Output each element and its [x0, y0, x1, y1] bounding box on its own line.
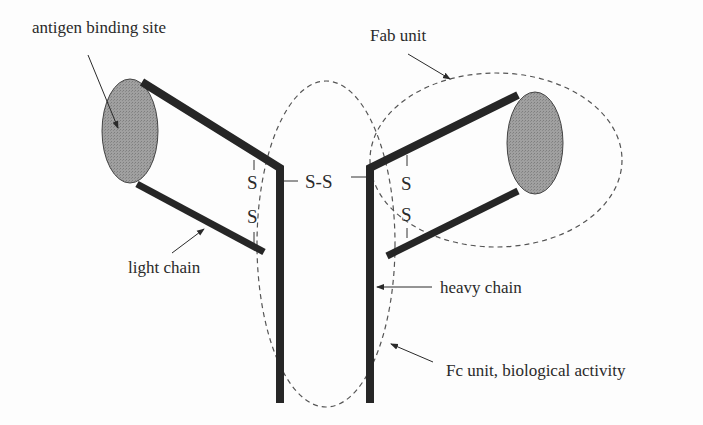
heavy-chain-label: heavy chain: [440, 278, 522, 297]
fc-unit-label: Fc unit, biological activity: [446, 361, 626, 380]
disulfide-left-lower: S: [247, 206, 258, 227]
light-chain-arrow: [172, 229, 204, 253]
fc-unit-arrow: [391, 344, 433, 362]
antibody-diagram: S-S S S S S antigen binding site Fab uni…: [0, 0, 703, 425]
disulfide-right-upper: S: [401, 173, 412, 194]
antigen-binding-site-label: antigen binding site: [32, 18, 166, 37]
disulfide-left-upper: S: [247, 172, 258, 193]
left-heavy-chain: [142, 82, 280, 403]
disulfide-bond-center: S-S: [305, 171, 332, 192]
fab-unit-label: Fab unit: [370, 26, 426, 45]
disulfide-right-lower: S: [401, 204, 412, 225]
right-antigen-binding-site: [507, 92, 563, 194]
left-antigen-binding-site: [102, 79, 158, 183]
fab-unit-arrow: [408, 54, 450, 79]
right-heavy-chain: [370, 95, 518, 403]
light-chain-label: light chain: [128, 258, 201, 277]
left-light-chain: [137, 184, 264, 252]
